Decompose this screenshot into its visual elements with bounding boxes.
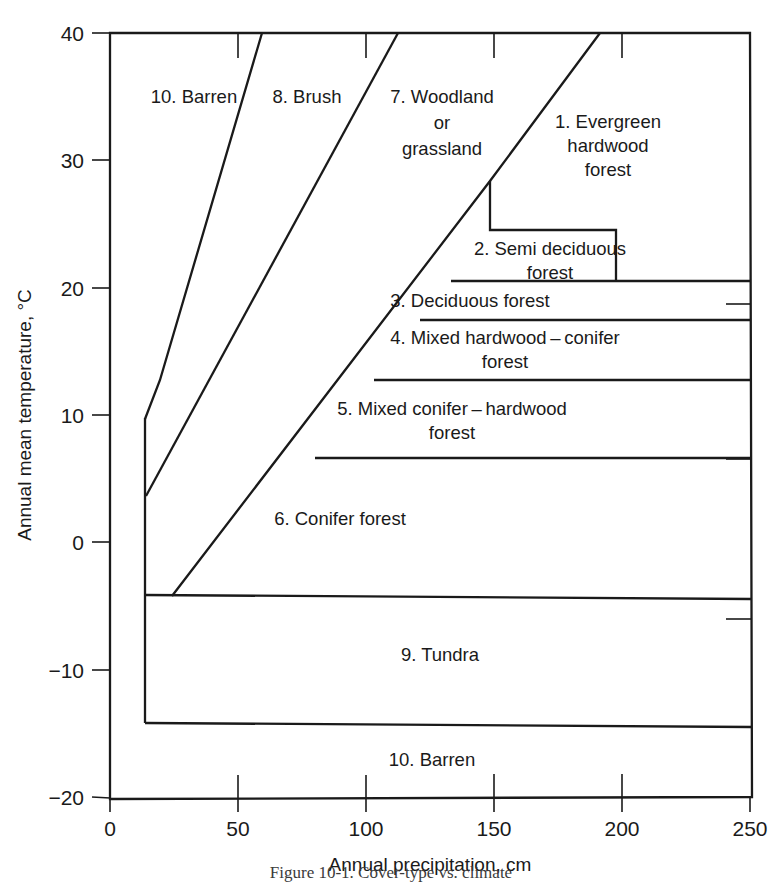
y-axis-ticks <box>92 33 110 798</box>
y-tick-label: 30 <box>61 149 84 172</box>
svg-text:4. Mixed hardwood – conifer: 4. Mixed hardwood – conifer <box>390 327 620 348</box>
band-separator-9-10 <box>145 723 751 727</box>
cover-type-climate-chart: 40 30 20 10 0 −10 −20 0 50 100 150 200 2… <box>0 0 782 883</box>
y-axis-title: Annual mean temperature, °C <box>14 289 35 541</box>
band-separator-6-9 <box>145 595 751 599</box>
svg-text:7. Woodland: 7. Woodland <box>390 86 494 107</box>
svg-text:6. Conifer forest: 6. Conifer forest <box>274 508 406 529</box>
region-label-7-woodland-grassland: 7. Woodland or grassland <box>390 86 494 159</box>
svg-text:5. Mixed conifer – hardwood: 5. Mixed conifer – hardwood <box>337 398 567 419</box>
x-tick-label: 0 <box>104 817 116 840</box>
y-tick-label: 40 <box>61 22 84 45</box>
svg-text:2. Semi deciduous: 2. Semi deciduous <box>474 238 626 259</box>
region-label-2-semi-deciduous-forest: 2. Semi deciduous forest <box>474 238 626 283</box>
y-tick-label: −10 <box>48 659 84 682</box>
svg-text:9. Tundra: 9. Tundra <box>401 644 480 665</box>
svg-text:grassland: grassland <box>402 138 482 159</box>
region-label-6-conifer-forest: 6. Conifer forest <box>274 508 406 529</box>
region-label-9-tundra: 9. Tundra <box>401 644 480 665</box>
x-tick-label: 150 <box>476 817 511 840</box>
y-tick-label: 20 <box>61 277 84 300</box>
region-label-5-mixed-conifer-hardwood-forest: 5. Mixed conifer – hardwood forest <box>337 398 567 443</box>
svg-text:forest: forest <box>482 351 528 372</box>
x-tick-label: 200 <box>604 817 639 840</box>
region-label-3-deciduous-forest: 3. Deciduous forest <box>390 290 549 311</box>
region-label-10-barren-cold: 10. Barren <box>389 749 475 770</box>
x-axis-top-ticks <box>238 33 622 58</box>
svg-text:forest: forest <box>527 262 573 283</box>
svg-text:hardwood: hardwood <box>567 135 648 156</box>
x-axis-bottom-inner-ticks <box>238 774 622 798</box>
y-tick-labels: 40 30 20 10 0 −10 −20 <box>48 22 84 809</box>
svg-text:3. Deciduous forest: 3. Deciduous forest <box>390 290 549 311</box>
svg-text:1. Evergreen: 1. Evergreen <box>555 111 661 132</box>
y-axis-inner-ticks-right <box>726 304 751 619</box>
svg-text:or: or <box>434 112 450 133</box>
x-tick-labels: 0 50 100 150 200 250 <box>104 817 767 840</box>
x-tick-label: 50 <box>226 817 249 840</box>
svg-text:forest: forest <box>585 159 631 180</box>
y-tick-label: 0 <box>72 531 84 554</box>
x-tick-label: 100 <box>348 817 383 840</box>
region-label-8-brush: 8. Brush <box>273 86 342 107</box>
biome-climate-figure: 40 30 20 10 0 −10 −20 0 50 100 150 200 2… <box>0 0 782 883</box>
region-label-10-barren-dry: 10. Barren <box>151 86 237 107</box>
y-tick-label: 10 <box>61 404 84 427</box>
region-label-4-mixed-hardwood-conifer-forest: 4. Mixed hardwood – conifer forest <box>390 327 620 372</box>
region-label-1-evergreen-hardwood-forest: 1. Evergreen hardwood forest <box>555 111 661 180</box>
y-tick-label: −20 <box>48 786 84 809</box>
figure-caption: Figure 10-1. Cover-type vs. climate <box>0 862 782 883</box>
svg-text:10. Barren: 10. Barren <box>151 86 237 107</box>
x-tick-label: 250 <box>732 817 767 840</box>
svg-text:8. Brush: 8. Brush <box>273 86 342 107</box>
svg-text:10. Barren: 10. Barren <box>389 749 475 770</box>
svg-text:forest: forest <box>429 422 475 443</box>
